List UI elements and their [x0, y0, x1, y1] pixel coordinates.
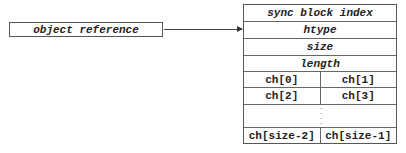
- htype-label: htype: [303, 24, 336, 36]
- cell-ch-0: ch[0]: [244, 72, 321, 87]
- cell-ch-2: ch[2]: [244, 88, 321, 104]
- cell-ch-1: ch[1]: [321, 72, 397, 87]
- row-ch-2-3: ch[2] ch[3]: [244, 88, 396, 105]
- cell-ch-size-minus-1: ch[size-1]: [321, 128, 397, 143]
- ellipsis-dot: ·: [319, 122, 323, 126]
- cell-ch-size-minus-2: ch[size-2]: [244, 128, 321, 143]
- row-sync-block-index: sync block index: [244, 5, 396, 22]
- sync-block-index-label: sync block index: [267, 7, 373, 19]
- row-ch-0-1: ch[0] ch[1]: [244, 72, 396, 88]
- row-size: size: [244, 39, 396, 56]
- length-label: length: [300, 58, 340, 70]
- cell-ch-3: ch[3]: [321, 88, 397, 104]
- row-ellipsis: · · · ·: [244, 105, 396, 128]
- object-reference-box: object reference: [9, 22, 163, 37]
- vertical-ellipsis-icon: · · · ·: [320, 107, 322, 126]
- row-htype: htype: [244, 22, 396, 39]
- row-length: length: [244, 56, 396, 72]
- string-object-layout: sync block index htype size length ch[0]…: [243, 4, 397, 144]
- object-reference-label: object reference: [33, 24, 139, 36]
- row-ch-last: ch[size-2] ch[size-1]: [244, 128, 396, 143]
- size-label: size: [307, 41, 333, 53]
- pointer-arrow-line: [164, 29, 242, 30]
